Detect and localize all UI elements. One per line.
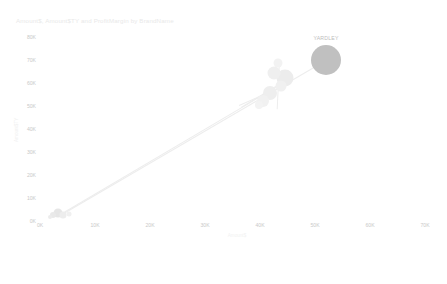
bubble-mark[interactable] bbox=[255, 101, 263, 109]
bubble-mark[interactable] bbox=[48, 215, 52, 219]
y-axis-tick-label: 30K bbox=[27, 149, 36, 155]
x-axis-tick-label: 30K bbox=[200, 222, 209, 228]
bubble-chart-visualization: Amount$, Amount$TY and ProfitMargin by B… bbox=[0, 0, 447, 284]
x-axis-tick-label: 60K bbox=[365, 222, 374, 228]
x-axis-tick-label: 50K bbox=[310, 222, 319, 228]
y-axis-tick-label: 10K bbox=[27, 195, 36, 201]
y-axis-tick-label: 0K bbox=[30, 218, 36, 224]
bubble-mark-yardley[interactable] bbox=[311, 45, 341, 75]
y-axis-tick-label: 40K bbox=[27, 126, 36, 132]
bubble-label: YARDLEY bbox=[313, 35, 338, 41]
page-title: Amount$, Amount$TY and ProfitMargin by B… bbox=[16, 17, 174, 24]
y-axis-tick-label: 60K bbox=[27, 80, 36, 86]
y-axis-tick-label: 80K bbox=[27, 34, 36, 40]
y-axis-title: Amount$TY bbox=[14, 118, 19, 142]
x-axis-tick-label: 70K bbox=[420, 222, 429, 228]
x-axis-tick-label: 10K bbox=[90, 222, 99, 228]
x-axis-tick-label: 20K bbox=[145, 222, 154, 228]
y-axis-tick-label: 50K bbox=[27, 103, 36, 109]
bubble-mark[interactable] bbox=[268, 66, 281, 79]
x-axis-tick-label: 40K bbox=[255, 222, 264, 228]
timeline-control[interactable]: Show Date Apr 2011May 2011Jun 2011Jul 20… bbox=[0, 243, 447, 273]
y-axis: Amount$TY 80K70K60K50K40K30K20K10K0K bbox=[0, 30, 40, 225]
x-axis-title: Amount$ bbox=[228, 233, 246, 239]
y-axis-tick-label: 70K bbox=[27, 57, 36, 63]
y-axis-tick-label: 20K bbox=[27, 172, 36, 178]
bubble-mark[interactable] bbox=[66, 212, 71, 217]
bubble-mark[interactable] bbox=[275, 81, 286, 92]
x-axis-tick-label: 0K bbox=[37, 222, 43, 228]
